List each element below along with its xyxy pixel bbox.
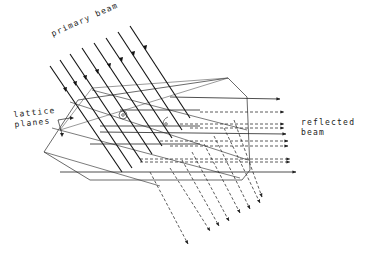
- primary-beams: [50, 26, 190, 172]
- transmitted-beams-dashed: [150, 120, 262, 244]
- reflected-beams-dashed: [140, 112, 290, 162]
- crystal-inner-outline: [60, 78, 228, 130]
- reflected-label-line1: reflected: [301, 118, 355, 128]
- crystal-outline: [44, 78, 250, 180]
- bragg-reflection-diagram: primary beam lattice planes reflected be…: [0, 0, 367, 255]
- lattice-pointer-arrow2: [60, 133, 64, 137]
- lattice-pointer-arrow1: [70, 116, 74, 120]
- reflected-beams-solid: [60, 97, 296, 172]
- reflected-label-line2: beam: [301, 128, 355, 138]
- lattice-pointer: [58, 118, 70, 134]
- reflected-beam-label: reflected beam: [301, 118, 355, 138]
